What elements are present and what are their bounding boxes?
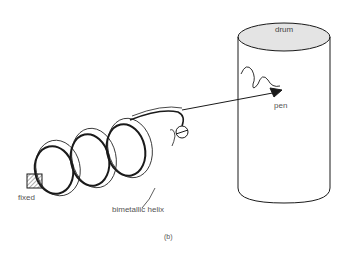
drum-cylinder <box>238 23 330 203</box>
fixed-label: fixed <box>18 193 35 202</box>
pen-arm <box>182 88 282 110</box>
fixed-mount-block <box>27 174 42 188</box>
thermograph-diagram: drum pen fixed bimetallic helix (b) <box>0 0 346 253</box>
figure-caption: (b) <box>164 233 173 240</box>
drum-label: drum <box>275 25 293 34</box>
diagram-drawing <box>0 0 346 253</box>
bimetallic-helix <box>30 107 188 200</box>
pen-label: pen <box>274 101 287 110</box>
helix-label: bimetallic helix <box>112 205 164 214</box>
